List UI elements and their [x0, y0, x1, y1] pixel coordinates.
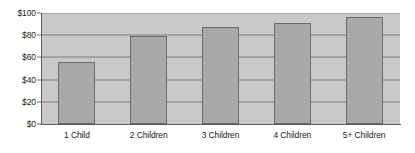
x-axis-line	[41, 124, 401, 125]
y-axis-tick-label: $40	[0, 75, 36, 84]
bar	[346, 17, 383, 124]
y-axis-tick-label: $80	[0, 31, 36, 40]
bar-series	[41, 13, 400, 124]
x-axis-tick-label: 1 Child	[64, 130, 90, 140]
bar	[274, 23, 311, 124]
y-axis-labels: $0$20$40$60$80$100	[0, 0, 36, 153]
y-axis-tick-label: $0	[0, 120, 36, 129]
x-axis-labels: 1 Child2 Children3 Children4 Children5+ …	[41, 130, 400, 146]
plot-area	[41, 13, 400, 124]
x-axis-tick-label: 3 Children	[202, 130, 240, 140]
y-axis-tick-label: $100	[0, 9, 36, 18]
bar	[202, 27, 239, 124]
y-axis-tick-label: $20	[0, 97, 36, 106]
y-axis-tick-label: $60	[0, 53, 36, 62]
x-axis-tick-label: 5+ Children	[343, 130, 386, 140]
bar-chart: $0$20$40$60$80$100 1 Child2 Children3 Ch…	[0, 0, 415, 153]
bar	[130, 36, 167, 124]
x-axis-tick-label: 2 Children	[130, 130, 168, 140]
x-axis-tick-label: 4 Children	[273, 130, 311, 140]
y-axis-line	[41, 13, 42, 125]
bar	[58, 62, 95, 124]
